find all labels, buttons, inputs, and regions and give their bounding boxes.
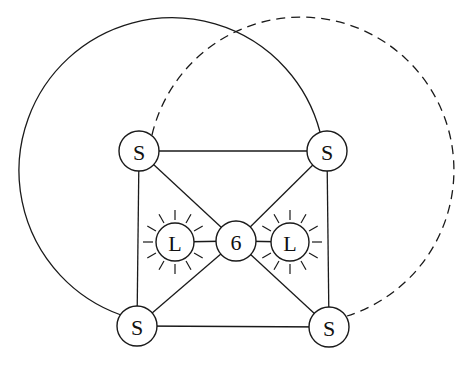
edge-s_top_right-s_bottom_right [327, 151, 329, 327]
node-s_top_left: S [119, 131, 159, 171]
ray-line [186, 214, 191, 223]
edge-s_bottom_left-s_bottom_right [137, 326, 329, 327]
nodes: SSSS6LL [117, 131, 349, 347]
node-label: S [323, 316, 335, 341]
ray-line [194, 253, 203, 258]
ray-line [147, 226, 156, 231]
node-s_bottom_left: S [117, 306, 157, 346]
node-label: S [133, 140, 145, 165]
node-l_right: L [271, 223, 309, 261]
graph-diagram: SSSS6LL [0, 0, 470, 365]
ray-line [159, 261, 164, 270]
ray-line [301, 214, 306, 223]
ray-line [147, 253, 156, 258]
ray-line [159, 214, 164, 223]
node-label: L [283, 231, 296, 256]
ray-line [194, 226, 203, 231]
ray-line [301, 261, 306, 270]
node-s_bottom_right: S [309, 307, 349, 347]
ray-line [262, 253, 271, 258]
solid-outer-arc [19, 18, 320, 315]
node-label: 6 [231, 230, 242, 255]
edge-s_top_left-s_bottom_left [137, 151, 139, 326]
node-label: S [321, 140, 333, 165]
dashed-outer-arc [152, 17, 454, 316]
ray-line [274, 214, 279, 223]
node-label: L [168, 231, 181, 256]
node-l_left: L [156, 223, 194, 261]
ray-line [309, 226, 318, 231]
node-s_top_right: S [307, 131, 347, 171]
node-center: 6 [216, 221, 256, 261]
ray-line [186, 261, 191, 270]
ray-line [309, 253, 318, 258]
ray-line [274, 261, 279, 270]
ray-line [262, 226, 271, 231]
node-label: S [131, 315, 143, 340]
